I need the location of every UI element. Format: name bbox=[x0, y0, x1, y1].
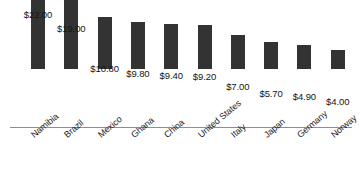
x-tick-wrap-5: United States bbox=[196, 132, 197, 133]
x-tick-wrap-6: Italy bbox=[229, 132, 230, 133]
bar-value-label-7: $5.70 bbox=[254, 88, 288, 99]
bar-9[interactable] bbox=[331, 50, 345, 69]
bar-value-label-2: $10.80 bbox=[88, 63, 122, 74]
bar-value-label-6: $7.00 bbox=[221, 81, 255, 92]
bar-chart: $22.00 $19.00 $10.80 $9.80 $9.40 $9.20 $… bbox=[0, 0, 361, 186]
x-tick-wrap-4: China bbox=[162, 132, 163, 133]
bar-value-label-5: $9.20 bbox=[188, 71, 222, 82]
bar-3[interactable] bbox=[131, 22, 145, 69]
bar-value-label-1: $19.00 bbox=[54, 23, 88, 34]
x-tick-wrap-8: Germany bbox=[295, 132, 296, 133]
bar-value-label-8: $4.90 bbox=[287, 91, 321, 102]
x-tick-wrap-3: Ghana bbox=[129, 132, 130, 133]
bar-1[interactable] bbox=[64, 0, 78, 69]
bar-8[interactable] bbox=[297, 45, 311, 69]
x-tick-wrap-1: Brazil bbox=[62, 132, 63, 133]
x-tick-wrap-0: Namibia bbox=[29, 132, 30, 133]
bar-4[interactable] bbox=[164, 24, 178, 69]
bar-value-label-9: $4.00 bbox=[321, 96, 355, 107]
x-tick-wrap-7: Japan bbox=[262, 132, 263, 133]
plot-area: $22.00 $19.00 $10.80 $9.80 $9.40 $9.20 $… bbox=[0, 0, 361, 128]
x-tick-wrap-2: Mexico bbox=[96, 132, 97, 133]
bar-2[interactable] bbox=[98, 17, 112, 69]
bar-value-label-0: $22.00 bbox=[21, 9, 55, 20]
bar-7[interactable] bbox=[264, 42, 278, 69]
x-tick-wrap-9: Norway bbox=[329, 132, 330, 133]
bar-value-label-3: $9.80 bbox=[121, 68, 155, 79]
bar-5[interactable] bbox=[198, 25, 212, 69]
bar-6[interactable] bbox=[231, 35, 245, 69]
bar-value-label-4: $9.40 bbox=[154, 70, 188, 81]
